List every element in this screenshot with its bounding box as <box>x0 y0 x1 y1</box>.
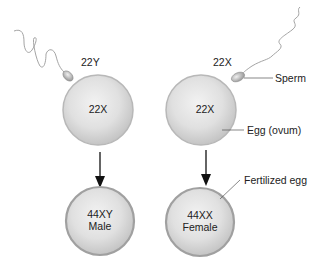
right-egg-label: 22X <box>185 103 225 115</box>
callout-sperm: Sperm <box>275 72 306 84</box>
leader-fertilized <box>220 180 240 199</box>
right-sperm-label: 22X <box>213 56 232 68</box>
arrow-left <box>95 152 105 188</box>
left-zygote-karyotype: 44XY <box>75 208 125 220</box>
right-zygote-sex: Female <box>175 221 225 233</box>
arrow-right <box>201 150 211 186</box>
left-zygote-sex: Male <box>75 220 125 232</box>
sperm-left <box>14 30 75 83</box>
callout-egg: Egg (ovum) <box>247 124 301 136</box>
left-sperm-label: 22Y <box>81 56 100 68</box>
callout-fertilized: Fertilized egg <box>244 174 307 186</box>
right-zygote-karyotype: 44XX <box>175 209 225 221</box>
right-zygote-label: 44XX Female <box>175 209 225 233</box>
left-egg-label: 22X <box>78 103 118 115</box>
left-zygote-label: 44XY Male <box>75 208 125 232</box>
